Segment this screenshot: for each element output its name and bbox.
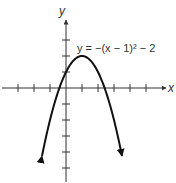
y-axis — [62, 20, 70, 182]
x-axis-label: x — [167, 81, 175, 95]
y-axis-label: y — [58, 4, 66, 18]
x-axis — [2, 84, 166, 92]
parabola-graph: x y y = −(x − 1)² − 2 — [0, 0, 176, 183]
parabola-curve — [42, 56, 122, 156]
equation-label: y = −(x − 1)² − 2 — [77, 42, 155, 54]
